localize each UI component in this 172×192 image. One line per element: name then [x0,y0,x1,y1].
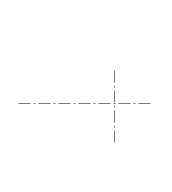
diagram-canvas [0,0,172,192]
